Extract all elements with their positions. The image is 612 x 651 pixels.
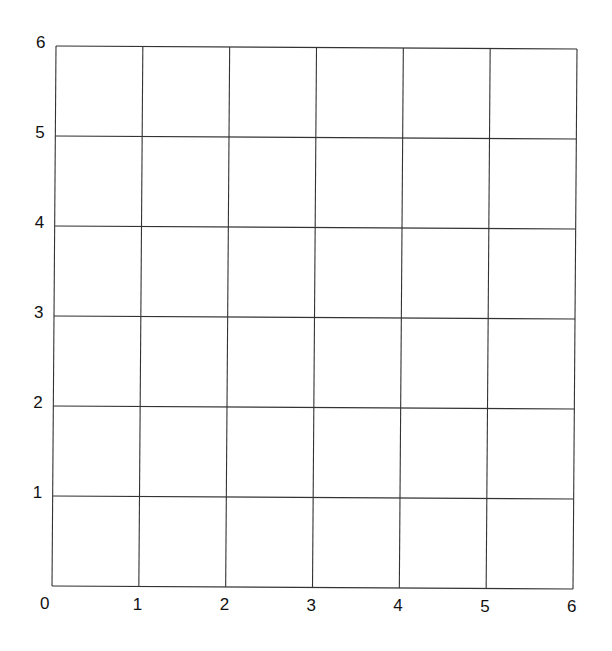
x-tick-label: 2 xyxy=(220,595,229,614)
x-tick-label: 3 xyxy=(307,596,316,615)
x-tick-label: 6 xyxy=(567,597,576,616)
y-axis-tick-labels: 123456 xyxy=(33,33,46,502)
y-tick-label: 1 xyxy=(33,483,42,502)
x-axis-tick-labels: 0123456 xyxy=(40,594,576,616)
y-tick-label: 3 xyxy=(34,303,43,322)
x-tick-label: 5 xyxy=(480,597,489,616)
grid-lines xyxy=(52,46,577,589)
x-tick-label: 1 xyxy=(133,595,142,614)
x-tick-label: 0 xyxy=(40,594,49,613)
y-tick-label: 2 xyxy=(33,393,42,412)
coordinate-grid: 0123456 123456 xyxy=(0,0,612,651)
y-tick-label: 6 xyxy=(36,33,45,52)
y-tick-label: 4 xyxy=(35,213,44,232)
x-tick-label: 4 xyxy=(393,596,402,615)
y-tick-label: 5 xyxy=(35,123,44,142)
